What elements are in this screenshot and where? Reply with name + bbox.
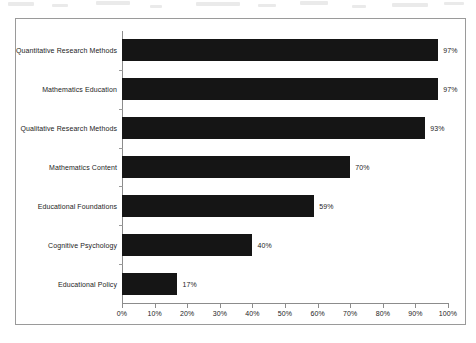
x-axis-tick: [122, 304, 123, 308]
x-axis-tick: [285, 304, 286, 308]
x-axis-tick-label: 100%: [439, 310, 457, 317]
bar-row: Educational Policy17%: [122, 264, 448, 303]
scan-smudge: [444, 2, 464, 5]
category-axis-label: Educational Policy: [58, 280, 117, 287]
bar-row: Quantitative Research Methods97%: [122, 31, 448, 70]
x-axis-tick-label: 60%: [310, 310, 324, 317]
bar-value-label: 97%: [443, 47, 457, 54]
category-label-slot: Educational Policy: [21, 264, 117, 303]
bar-track: 97%: [122, 78, 448, 100]
bar-row: Mathematics Education97%: [122, 70, 448, 109]
category-axis-label: Mathematics Content: [49, 163, 117, 170]
x-axis-tick-label: 50%: [278, 310, 292, 317]
category-axis-label: Mathematics Education: [42, 86, 117, 93]
scan-smudge: [352, 5, 366, 8]
bar-row: Educational Foundations59%: [122, 186, 448, 225]
category-axis-label: Qualitative Research Methods: [20, 125, 117, 132]
x-axis-tick: [448, 304, 449, 308]
x-axis-tick: [383, 304, 384, 308]
bar-row: Mathematics Content70%: [122, 148, 448, 187]
category-label-slot: Educational Foundations: [21, 186, 117, 225]
category-axis-label: Educational Foundations: [38, 202, 117, 209]
scan-smudge: [258, 4, 276, 7]
bar: [122, 78, 438, 100]
x-axis-tick-label: 90%: [408, 310, 422, 317]
x-axis-tick: [220, 304, 221, 308]
x-axis-tick: [415, 304, 416, 308]
x-axis-tick-label: 20%: [180, 310, 194, 317]
category-axis-label: Cognitive Psychology: [48, 241, 117, 248]
bar-value-label: 93%: [430, 125, 444, 132]
bar-row: Cognitive Psychology40%: [122, 225, 448, 264]
category-label-slot: Quantitative Research Methods: [21, 31, 117, 70]
category-label-slot: Cognitive Psychology: [21, 225, 117, 264]
scan-smudge: [96, 1, 130, 5]
bar-track: 97%: [122, 39, 448, 61]
bar: [122, 117, 425, 139]
scan-smudge: [52, 4, 68, 7]
category-label-slot: Mathematics Content: [21, 148, 117, 187]
bar-track: 59%: [122, 195, 448, 217]
category-label-slot: Mathematics Education: [21, 70, 117, 109]
x-axis-tick: [187, 304, 188, 308]
bar-value-label: 17%: [182, 280, 196, 287]
category-label-slot: Qualitative Research Methods: [21, 109, 117, 148]
x-axis-tick: [350, 304, 351, 308]
x-axis-tick: [155, 304, 156, 308]
scan-smudge: [392, 3, 428, 7]
category-axis-label: Quantitative Research Methods: [16, 47, 117, 54]
scan-smudge: [8, 2, 34, 6]
x-axis-tick: [252, 304, 253, 308]
bar-track: 40%: [122, 234, 448, 256]
scan-artifact-band: [0, 0, 476, 14]
bar: [122, 273, 177, 295]
plot-area: Quantitative Research Methods97%Mathemat…: [122, 31, 448, 303]
bar-value-label: 40%: [257, 241, 271, 248]
x-axis-tick-label: 0%: [117, 310, 127, 317]
x-axis-tick: [318, 304, 319, 308]
bar-value-label: 70%: [355, 163, 369, 170]
bar: [122, 195, 314, 217]
bar-track: 93%: [122, 117, 448, 139]
bar-value-label: 59%: [319, 202, 333, 209]
x-axis-tick-label: 40%: [245, 310, 259, 317]
bar-track: 70%: [122, 156, 448, 178]
x-axis-tick-label: 10%: [147, 310, 161, 317]
scan-smudge: [300, 1, 328, 5]
x-axis-tick-label: 70%: [343, 310, 357, 317]
x-axis-tick-label: 80%: [376, 310, 390, 317]
scan-smudge: [150, 5, 162, 8]
bar-row: Qualitative Research Methods93%: [122, 109, 448, 148]
bar: [122, 39, 438, 61]
bar: [122, 156, 350, 178]
bar-value-label: 97%: [443, 86, 457, 93]
x-axis-tick-label: 30%: [213, 310, 227, 317]
chart-frame: Quantitative Research Methods97%Mathemat…: [15, 18, 466, 325]
scan-smudge: [196, 2, 240, 6]
bar: [122, 234, 252, 256]
bar-track: 17%: [122, 273, 448, 295]
